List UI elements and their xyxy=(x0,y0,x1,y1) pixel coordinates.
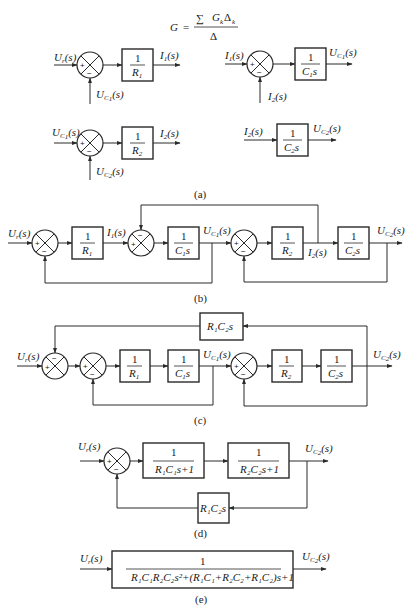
svg-text:−: − xyxy=(114,465,119,474)
signal-ur: Ur(s) xyxy=(17,350,40,364)
signal-i2: I2(s) xyxy=(267,90,287,104)
caption-d: (d) xyxy=(194,527,207,540)
svg-text:1: 1 xyxy=(135,52,141,64)
svg-text:−: − xyxy=(87,147,92,156)
signal-i1: I1(s) xyxy=(159,49,179,63)
signal-i1: I1(s) xyxy=(224,49,244,63)
svg-text:+: + xyxy=(234,362,239,371)
svg-text:1: 1 xyxy=(285,230,291,242)
panel-a: Ur(s) + − 1 R1 I1(s) UC1(s) I1(s) xyxy=(52,46,357,201)
signal-i1: I1(s) xyxy=(106,226,126,240)
block-diagram-canvas: G = ∑ G k Δ k Δ Ur(s) + − 1 R1 I1(s) xyxy=(0,0,406,615)
signal-i2: I2(s) xyxy=(243,125,263,139)
summing-junction: + − xyxy=(42,353,68,379)
svg-text:−: − xyxy=(241,370,246,379)
svg-text:1: 1 xyxy=(135,130,141,142)
svg-text:1: 1 xyxy=(200,555,206,567)
svg-text:1: 1 xyxy=(85,230,91,242)
signal-uc1: UC1(s) xyxy=(203,348,231,363)
svg-text:+: + xyxy=(131,240,136,249)
signal-ur: Ur(s) xyxy=(8,227,31,241)
svg-text:+: + xyxy=(250,60,255,69)
formula-lhs: G xyxy=(170,21,178,33)
svg-text:+: + xyxy=(83,362,88,371)
signal-ur: Ur(s) xyxy=(78,440,101,454)
svg-text:+: + xyxy=(234,239,239,248)
summing-junction: + − xyxy=(104,448,130,474)
svg-text:1: 1 xyxy=(308,51,314,63)
svg-text:−: − xyxy=(241,247,246,256)
formula-numerator-g: G xyxy=(212,11,220,23)
formula-numerator-delta: Δ xyxy=(224,11,231,23)
signal-uc2: UC2(s) xyxy=(313,122,341,137)
signal-uc2: UC2(s) xyxy=(377,224,405,239)
signal-uc2: UC2(s) xyxy=(373,348,401,363)
svg-text:R₁C₁R₂C₂s²+(R₁C₁+R₂C₂+R₁C₂)s+1: R₁C₁R₂C₂s²+(R₁C₁+R₂C₂+R₁C₂)s+1 xyxy=(130,571,294,584)
svg-text:1: 1 xyxy=(284,353,290,365)
formula-denominator: Δ xyxy=(210,30,217,42)
svg-text:R₁C₂s: R₁C₂s xyxy=(206,320,233,332)
panel-b: Ur(s) + − 1 R1 I1(s) + − 1 C1s UC1(s) xyxy=(8,205,405,305)
svg-text:−: − xyxy=(42,247,47,256)
signal-uc2: UC2(s) xyxy=(302,550,330,565)
svg-text:1: 1 xyxy=(334,353,340,365)
summing-junction: + − xyxy=(80,353,106,379)
signal-uc1: UC1(s) xyxy=(96,88,124,103)
svg-text:+: + xyxy=(107,457,112,466)
svg-text:+: + xyxy=(80,139,85,148)
summing-junction: + − xyxy=(128,230,154,256)
formula-sigma: ∑ xyxy=(196,12,204,25)
svg-text:−: − xyxy=(52,354,57,363)
summing-junction: + − xyxy=(32,230,58,256)
formula-equals: = xyxy=(183,21,189,33)
signal-ur: Ur(s) xyxy=(80,552,103,566)
svg-text:1: 1 xyxy=(181,353,187,365)
svg-text:R₂C₂s+1: R₂C₂s+1 xyxy=(239,463,279,475)
caption-e: (e) xyxy=(195,593,208,606)
caption-a: (a) xyxy=(194,188,207,201)
svg-text:1: 1 xyxy=(290,127,296,139)
svg-text:+: + xyxy=(35,239,40,248)
a-eq-uc1: I1(s) + − 1 C1s UC1(s) I2(s) xyxy=(224,46,357,104)
svg-text:+: + xyxy=(45,363,50,372)
caption-c: (c) xyxy=(194,414,207,427)
svg-text:1: 1 xyxy=(132,353,138,365)
svg-text:−: − xyxy=(138,231,143,240)
caption-b: (b) xyxy=(194,292,207,305)
signal-i2: I2(s) xyxy=(159,127,179,141)
summing-junction: + − xyxy=(247,51,273,77)
panel-c: R₁C₂s Ur(s) + − + − 1 R1 1 C1s UC1(s) xyxy=(17,313,401,427)
signal-uc1: UC1(s) xyxy=(52,126,80,141)
summing-junction: + − xyxy=(77,130,103,156)
panel-e: Ur(s) 1 R₁C₁R₂C₂s²+(R₁C₁+R₂C₂+R₁C₂)s+1 U… xyxy=(80,550,330,606)
a-eq-uc2: I2(s) 1 C2s UC2(s) xyxy=(243,122,341,156)
feedback-r1c2s xyxy=(55,326,200,353)
panel-d: Ur(s) + − 1 R₁C₁s+1 1 R₂C₂s+1 UC2(s) R₁C… xyxy=(78,440,333,540)
formula-numerator-delta-sub: k xyxy=(232,18,236,26)
a-eq-i1: Ur(s) + − 1 R1 I1(s) UC1(s) xyxy=(54,49,180,104)
signal-i2: I2(s) xyxy=(307,246,327,260)
svg-text:−: − xyxy=(257,68,262,77)
svg-text:1: 1 xyxy=(351,230,357,242)
signal-ur: Ur(s) xyxy=(54,51,77,65)
svg-text:R₁C₂s: R₁C₂s xyxy=(199,502,226,514)
svg-text:−: − xyxy=(87,69,92,78)
a-eq-i2: UC1(s) + − 1 R2 I2(s) UC2(s) xyxy=(52,126,180,180)
signal-uc2: UC2(s) xyxy=(96,165,124,180)
svg-text:1: 1 xyxy=(256,446,262,458)
svg-text:−: − xyxy=(90,370,95,379)
summing-junction: + − xyxy=(77,52,103,78)
summing-junction: + − xyxy=(231,230,257,256)
signal-uc1: UC1(s) xyxy=(329,46,357,61)
svg-text:1: 1 xyxy=(171,446,177,458)
svg-text:1: 1 xyxy=(181,230,187,242)
mason-gain-formula: G = ∑ G k Δ k Δ xyxy=(170,11,238,42)
svg-text:R₁C₁s+1: R₁C₁s+1 xyxy=(154,463,194,475)
signal-uc2: UC2(s) xyxy=(305,442,333,457)
svg-text:+: + xyxy=(80,61,85,70)
signal-uc1: UC1(s) xyxy=(203,224,231,239)
summing-junction: + − xyxy=(231,353,257,379)
